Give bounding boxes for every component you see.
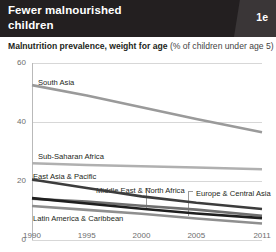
chart-figure: Fewer malnourished children 1e Malnutrit… xyxy=(0,0,276,252)
series-line-sub-saharan-africa xyxy=(32,163,262,169)
series-line-south-asia xyxy=(32,85,262,132)
series-line-east-asia-pacific xyxy=(32,180,262,210)
series-lines xyxy=(0,0,276,252)
